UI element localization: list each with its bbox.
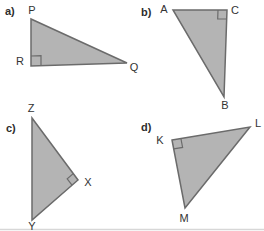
vertex-label-B: B <box>221 99 228 111</box>
vertex-label-P: P <box>28 4 35 16</box>
vertex-label-C: C <box>231 4 239 16</box>
triangle-c-shape <box>32 118 78 220</box>
triangle-b-shape <box>173 10 227 97</box>
part-label-a: a) <box>5 5 15 17</box>
vertex-label-X: X <box>84 176 92 188</box>
vertex-label-R: R <box>16 55 24 67</box>
vertex-label-Z: Z <box>28 102 35 114</box>
vertex-label-L: L <box>255 117 261 129</box>
part-label-b: b) <box>141 6 152 18</box>
vertex-label-Y: Y <box>28 220 36 231</box>
part-label-d: d) <box>141 121 152 133</box>
triangle-a-shape <box>31 19 127 66</box>
triangle-d-shape <box>172 127 250 208</box>
triangles-figure: a)PRQb)ACBc)ZXYd)KLM <box>0 0 264 231</box>
vertex-label-M: M <box>179 212 188 224</box>
vertex-label-A: A <box>160 3 168 15</box>
vertex-label-K: K <box>156 134 164 146</box>
vertex-label-Q: Q <box>130 61 139 73</box>
worksheet-page: a)PRQb)ACBc)ZXYd)KLM <box>0 0 264 231</box>
part-label-c: c) <box>6 122 16 134</box>
